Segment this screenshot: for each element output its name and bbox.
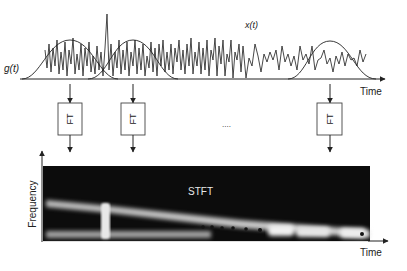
- spectrogram: STFT: [43, 166, 370, 242]
- time-axis-bottom-label: Time: [360, 247, 382, 258]
- ft-label-3: FT: [325, 113, 335, 124]
- ft-block-3: FT: [317, 84, 342, 152]
- stft-label: STFT: [188, 186, 213, 197]
- ft-block-1: FT: [58, 84, 82, 152]
- signal-label: x(t): [244, 20, 258, 30]
- ft-block-2: FT: [121, 84, 145, 152]
- time-signal-plot: g(t) x(t) Time: [4, 14, 385, 97]
- impulse-band: [101, 203, 110, 239]
- ft-label-2: FT: [128, 113, 138, 124]
- constant-band: [46, 231, 211, 238]
- stft-diagram: g(t) x(t) Time FT FT FT ....: [0, 0, 407, 271]
- window-function-label: g(t): [4, 63, 19, 74]
- ft-label-1: FT: [65, 113, 75, 124]
- time-axis-top-label: Time: [360, 86, 382, 97]
- ellipsis-label: ....: [222, 120, 231, 129]
- frequency-axis-label: Frequency: [27, 180, 38, 227]
